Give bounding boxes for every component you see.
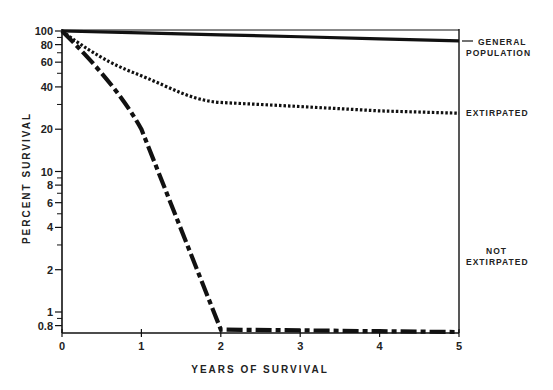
- legend-general-line1: GENERAL: [478, 37, 527, 47]
- x-tick-label: 4: [377, 340, 384, 352]
- x-tick-label: 3: [297, 340, 303, 352]
- x-tick-label: 1: [138, 340, 144, 352]
- legend-not-extirpated-line1: NOT: [486, 246, 507, 256]
- legend-general-line2: POPULATION: [466, 48, 531, 58]
- y-tick-label: 6: [47, 197, 53, 209]
- y-tick-label: 80: [41, 39, 53, 51]
- y-tick-label: 10: [41, 166, 53, 178]
- legend-not-extirpated-line2: EXTIRPATED: [466, 257, 529, 267]
- x-tick-label: 2: [218, 340, 224, 352]
- y-axis-title: PERCENT SURVIVAL: [21, 112, 32, 244]
- axes: 1008060402010864210.8012345: [35, 25, 473, 352]
- y-tick-label: 60: [41, 56, 53, 68]
- x-tick-label: 0: [59, 340, 65, 352]
- y-tick-label: 100: [35, 25, 53, 37]
- legend-extirpated: EXTIRPATED: [466, 108, 529, 118]
- series-not-extirpated: [62, 31, 459, 332]
- y-tick-label: 8: [47, 179, 53, 191]
- x-axis-title: YEARS OF SURVIVAL: [191, 364, 329, 375]
- series-lines: [62, 31, 459, 332]
- y-tick-label: 40: [41, 81, 53, 93]
- y-tick-label: 0.8: [38, 320, 53, 332]
- survival-chart: 1008060402010864210.8012345 YEARS OF SUR…: [0, 0, 553, 390]
- y-tick-label: 2: [47, 264, 53, 276]
- y-tick-label: 4: [47, 221, 54, 233]
- y-tick-label: 1: [47, 306, 53, 318]
- x-tick-label: 5: [456, 340, 462, 352]
- series-general-population: [62, 31, 459, 41]
- y-tick-label: 20: [41, 123, 53, 135]
